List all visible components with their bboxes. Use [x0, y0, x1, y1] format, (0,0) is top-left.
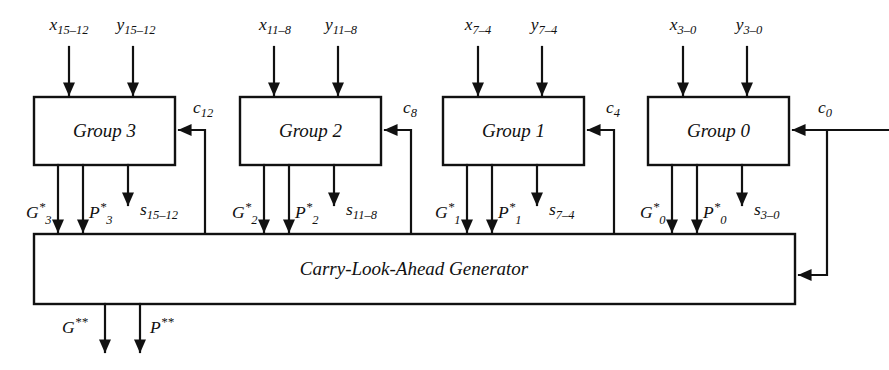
group-box-group0: Group 0 [648, 97, 789, 165]
input-label-y-group2: y11–8 [323, 14, 358, 37]
carry-label-c4: c4 [606, 97, 620, 120]
input-label-y-group3: y15–12 [114, 14, 155, 37]
input-label-y-group0: y3–0 [734, 14, 763, 37]
output-label-g-group0: G*0 [640, 199, 666, 227]
input-label-x-group2: x11–8 [258, 14, 292, 37]
group-box-group3: Group 3 [34, 97, 175, 165]
group-label-group1: Group 1 [482, 120, 545, 141]
group-label-group2: Group 2 [279, 120, 343, 141]
carry-path-c8 [385, 130, 411, 234]
input-label-x-group1: x7–4 [464, 14, 492, 37]
generator-output-label-p: P** [149, 314, 174, 337]
group-box-group2: Group 2 [240, 97, 381, 165]
carry-path-c12 [179, 130, 205, 234]
output-label-p-group2: P*2 [294, 199, 318, 227]
group-box-group1: Group 1 [443, 97, 584, 165]
group-label-group0: Group 0 [687, 120, 751, 141]
output-label-p-group1: P*1 [497, 199, 521, 227]
generator-label: Carry-Look-Ahead Generator [300, 258, 529, 279]
output-label-sum-group3: s15–12 [140, 199, 178, 222]
cla-adder-diagram: Group 3 Group 2 Group 1 Group 0 Carry-Lo… [0, 0, 889, 370]
output-label-p-group3: P*3 [88, 199, 112, 227]
output-label-p-group0: P*0 [702, 199, 727, 227]
carry-path-c0-to-generator [799, 130, 889, 275]
generator-output-label-g: G** [62, 314, 88, 337]
input-label-x-group3: x15–12 [48, 14, 88, 37]
carry-label-c12: c12 [193, 97, 213, 120]
output-label-g-group2: G*2 [232, 199, 257, 227]
carry-path-c4 [588, 130, 614, 234]
diagram-canvas: Group 3 Group 2 Group 1 Group 0 Carry-Lo… [0, 0, 889, 370]
output-label-sum-group0: s3–0 [754, 199, 780, 222]
group-label-group3: Group 3 [73, 120, 136, 141]
carry-look-ahead-generator-box: Carry-Look-Ahead Generator [34, 234, 795, 304]
output-label-sum-group2: s11–8 [346, 199, 378, 222]
carry-label-c0: c0 [818, 97, 833, 120]
output-label-g-group1: G*1 [435, 199, 460, 227]
input-label-x-group0: x3–0 [669, 14, 697, 37]
carry-label-c8: c8 [403, 97, 418, 120]
output-label-g-group3: G*3 [26, 199, 51, 227]
output-label-sum-group1: s7–4 [549, 199, 575, 222]
input-label-y-group1: y7–4 [529, 14, 558, 37]
